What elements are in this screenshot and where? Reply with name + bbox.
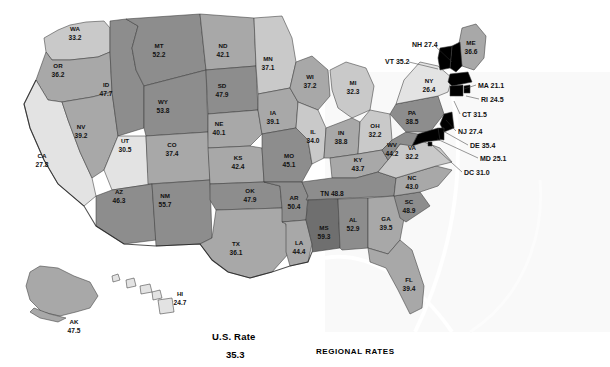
state-value-NV: 39.2 [75, 132, 88, 139]
state-value-NY: 26.4 [423, 86, 436, 93]
state-value-ND: 42.1 [217, 51, 230, 58]
state-label-TX: TX [232, 240, 241, 247]
state-label-KS: KS [234, 154, 243, 161]
state-HI-1[interactable] [112, 274, 120, 282]
state-label-NE: NE [215, 120, 224, 127]
state-label-WA: WA [70, 25, 80, 32]
state-label-AR: AR [290, 194, 299, 201]
state-label-NM: NM [160, 192, 170, 199]
callout-label-VT: VT 35.2 [385, 58, 410, 65]
state-label-AL: AL [349, 216, 357, 223]
state-ND[interactable] [200, 14, 256, 70]
state-HI-2[interactable] [126, 278, 136, 288]
callout-label-DC: DC 31.0 [464, 169, 490, 176]
state-value-NE: 40.1 [213, 129, 226, 136]
state-value-WA: 33.2 [69, 34, 82, 41]
state-value-MS: 59.3 [318, 233, 331, 240]
state-label-WY: WY [158, 98, 169, 105]
state-value-ME: 36.6 [465, 48, 478, 55]
state-ME[interactable] [458, 24, 486, 70]
state-label-GA: GA [381, 215, 391, 222]
state-value-MT: 52.2 [153, 51, 166, 58]
callout-label-RI: RI 24.5 [481, 96, 504, 103]
state-CT[interactable] [450, 85, 463, 96]
state-label-CA: CA [38, 152, 47, 159]
state-label-KY: KY [354, 156, 363, 163]
state-polygons [24, 14, 486, 322]
state-label-LA: LA [295, 239, 304, 246]
state-value-MN: 37.1 [262, 64, 275, 71]
state-label-UT: UT [121, 137, 129, 144]
state-label-ND: ND [219, 42, 228, 49]
state-label-OH: OH [370, 122, 380, 129]
state-value-WV: 44.2 [386, 150, 399, 157]
state-value-AR: 50.4 [288, 203, 301, 210]
state-value-SD: 47.9 [216, 91, 229, 98]
state-value-SC: 48.9 [403, 207, 416, 214]
state-value-IN: 38.8 [335, 138, 348, 145]
state-value-HI: 24.7 [174, 299, 187, 306]
state-label-MO: MO [284, 152, 294, 159]
state-AK[interactable] [26, 266, 98, 316]
state-label-WV: WV [387, 141, 398, 148]
state-TX[interactable] [200, 208, 290, 278]
state-value-WI: 37.2 [304, 82, 317, 89]
state-DC[interactable] [428, 142, 432, 146]
state-label-PA: PA [408, 109, 417, 116]
state-label-NY: NY [425, 77, 434, 84]
callout-label-CT: CT 31.5 [462, 111, 487, 118]
state-value-AL: 52.9 [347, 225, 360, 232]
state-value-ID: 47.7 [100, 90, 113, 97]
state-label-AZ: AZ [115, 188, 123, 195]
state-label-CO: CO [167, 141, 176, 148]
state-AZ[interactable] [96, 184, 156, 244]
state-HI-5[interactable] [158, 298, 174, 314]
state-label-SC: SC [405, 198, 414, 205]
state-value-CA: 27.8 [36, 161, 49, 168]
state-label-VA: VA [408, 144, 417, 151]
callout-label-MA: MA 21.1 [478, 82, 504, 89]
state-SD[interactable] [206, 66, 258, 114]
state-label-NV: NV [77, 123, 86, 130]
state-IA[interactable] [258, 88, 298, 134]
state-NM[interactable] [152, 180, 212, 246]
state-label-WI: WI [306, 73, 314, 80]
state-MN[interactable] [254, 16, 296, 94]
state-label-TN: TN 48.8 [320, 190, 344, 197]
state-label-ME: ME [466, 39, 475, 46]
state-value-AZ: 46.3 [113, 197, 126, 204]
state-value-KS: 42.4 [232, 163, 245, 170]
callout-label-NH: NH 27.4 [412, 41, 438, 48]
us-rate-value: 35.3 [226, 349, 245, 360]
state-value-KY: 43.7 [352, 165, 365, 172]
state-RI[interactable] [464, 85, 470, 93]
state-label-MI: MI [350, 79, 357, 86]
state-value-FL: 39.4 [403, 285, 416, 292]
us-choropleth-map: WA33.2OR36.2CA27.8NV39.2ID47.7MT52.2WY53… [0, 0, 610, 367]
state-value-GA: 39.5 [380, 224, 393, 231]
state-value-NM: 55.7 [159, 201, 172, 208]
state-value-LA: 44.4 [293, 248, 306, 255]
state-HI-4[interactable] [152, 290, 162, 300]
state-label-IL: IL [310, 128, 316, 135]
state-label-MS: MS [319, 224, 328, 231]
state-value-TX: 36.1 [230, 249, 243, 256]
state-value-OK: 47.9 [244, 196, 257, 203]
state-AL[interactable] [338, 198, 368, 250]
state-value-IL: 34.0 [307, 137, 320, 144]
state-label-MN: MN [263, 55, 273, 62]
state-value-VA: 32.2 [406, 153, 419, 160]
state-label-OR: OR [53, 62, 63, 69]
state-label-FL: FL [405, 276, 413, 283]
state-value-AK: 47.5 [68, 327, 81, 334]
state-label-SD: SD [218, 82, 227, 89]
state-value-IA: 39.1 [267, 118, 280, 125]
state-HI-3[interactable] [140, 284, 152, 294]
map-figure: WA33.2OR36.2CA27.8NV39.2ID47.7MT52.2WY53… [0, 0, 610, 367]
state-value-CO: 37.4 [166, 150, 179, 157]
state-CO[interactable] [146, 132, 210, 184]
state-VT[interactable] [438, 46, 452, 70]
state-value-MI: 32.3 [347, 88, 360, 95]
state-value-OR: 36.2 [52, 71, 65, 78]
state-value-NC: 43.0 [406, 183, 419, 190]
